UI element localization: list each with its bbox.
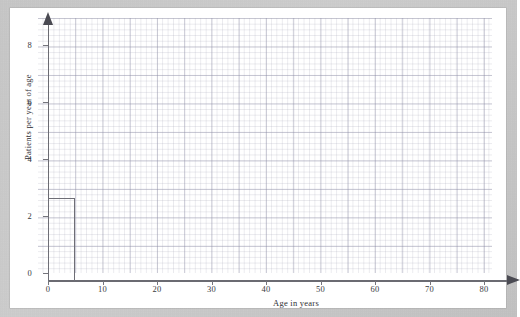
histogram-chart: 0 10 20 30 40 50 60 70 80 0 2 4 6 8 <box>10 8 506 308</box>
x-axis-title-text: Age in years <box>273 298 319 308</box>
x-axis-arrow-icon <box>507 275 520 285</box>
x-axis-title: Age in years <box>10 298 506 308</box>
histogram-bar <box>48 198 75 281</box>
document-page: 0 10 20 30 40 50 60 70 80 0 2 4 6 8 <box>10 8 506 308</box>
y-axis-title: Patients per year of age <box>23 37 33 197</box>
bar-series <box>10 8 506 308</box>
